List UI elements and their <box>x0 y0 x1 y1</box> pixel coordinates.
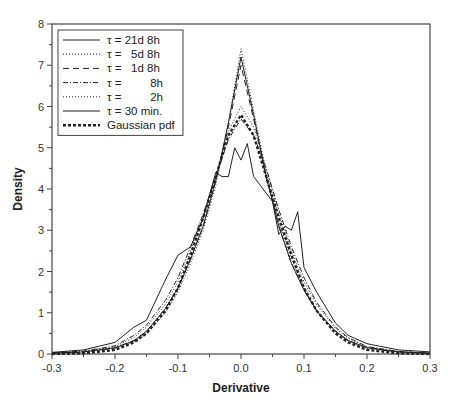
x-tick-label: 0.1 <box>296 362 311 374</box>
y-tick-label: 5 <box>38 142 44 154</box>
x-axis-title: Derivative <box>212 381 270 395</box>
legend-label: τ = 21d 8h <box>107 34 160 46</box>
y-tick-label: 3 <box>38 224 44 236</box>
y-axis-title: Density <box>11 167 25 211</box>
legend-label: τ = 2h <box>107 91 163 103</box>
density-chart: 012345678-0.3-0.2-0.10.00.10.20.3 τ = 21… <box>0 0 454 414</box>
x-tick-label: -0.1 <box>169 362 188 374</box>
y-tick-label: 7 <box>38 59 44 71</box>
series-line-5 <box>52 144 430 353</box>
x-tick-label: -0.3 <box>43 362 62 374</box>
series-line-3 <box>52 119 430 353</box>
legend-label: τ = 5d 8h <box>107 48 160 60</box>
y-tick-label: 8 <box>38 18 44 30</box>
legend-label: τ = 8h <box>107 77 163 89</box>
y-tick-label: 6 <box>38 101 44 113</box>
y-tick-label: 2 <box>38 266 44 278</box>
series-line-6 <box>52 115 430 354</box>
series-line-4 <box>52 107 430 354</box>
legend: τ = 21d 8hτ = 5d 8hτ = 1d 8hτ = 8hτ = 2h… <box>58 30 183 135</box>
x-tick-label: 0.2 <box>359 362 374 374</box>
y-tick-label: 4 <box>38 183 44 195</box>
legend-label: τ = 1d 8h <box>107 62 160 74</box>
legend-label: Gaussian pdf <box>107 119 176 131</box>
x-tick-label: -0.2 <box>106 362 125 374</box>
y-tick-label: 1 <box>38 307 44 319</box>
x-tick-label: 0.3 <box>422 362 437 374</box>
legend-label: τ = 30 min. <box>107 105 162 117</box>
x-tick-label: 0.0 <box>233 362 248 374</box>
y-tick-label: 0 <box>38 348 44 360</box>
